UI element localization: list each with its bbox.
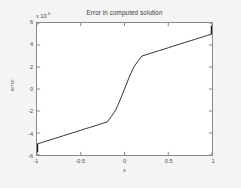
- y-exponent-base: x 10: [36, 13, 47, 19]
- y-tick-label: 6: [30, 19, 33, 25]
- y-axis-tick-labels: 6420-2-4-6: [0, 22, 33, 156]
- y-tick-label: -4: [28, 131, 33, 137]
- y-tick-label: -6: [28, 153, 33, 159]
- y-tick-label: 0: [30, 86, 33, 92]
- x-tick-label: 0.5: [165, 158, 173, 164]
- data-series-group: [37, 34, 212, 144]
- y-axis-title: error: [9, 65, 15, 105]
- x-axis-title: x: [36, 167, 213, 173]
- x-tick-label: 1: [211, 158, 214, 164]
- x-tick-label: -0.5: [75, 158, 85, 164]
- y-tick-label: 2: [30, 64, 33, 70]
- plot-svg: [37, 23, 212, 155]
- plot-area: [36, 22, 213, 156]
- y-axis-exponent-label: x 10-6: [36, 11, 50, 19]
- series-line: [37, 34, 212, 144]
- chart-title: Error in computed solution: [36, 9, 213, 16]
- x-tick-label: 0: [123, 158, 126, 164]
- y-tick-label: -2: [28, 108, 33, 114]
- y-exponent-power: -6: [47, 11, 51, 16]
- figure-canvas: Error in computed solution x 10-6 6420-2…: [0, 0, 241, 188]
- x-tick-label: -1: [34, 158, 39, 164]
- y-tick-label: 4: [30, 41, 33, 47]
